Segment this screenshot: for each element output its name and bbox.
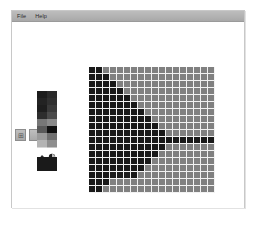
canvas-cell[interactable] (187, 116, 194, 123)
canvas-cell[interactable] (138, 102, 145, 109)
canvas-cell[interactable] (208, 186, 215, 193)
canvas-cell[interactable] (110, 81, 117, 88)
canvas-cell[interactable] (89, 144, 96, 151)
canvas-cell[interactable] (138, 158, 145, 165)
color-palette[interactable] (37, 91, 57, 154)
canvas-cell[interactable] (96, 186, 103, 193)
canvas-cell[interactable] (159, 144, 166, 151)
canvas-cell[interactable] (103, 179, 110, 186)
canvas-cell[interactable] (152, 186, 159, 193)
canvas-cell[interactable] (89, 137, 96, 144)
canvas-cell[interactable] (166, 158, 173, 165)
current-color-swatch[interactable] (37, 157, 57, 171)
canvas-cell[interactable] (152, 179, 159, 186)
canvas-cell[interactable] (173, 116, 180, 123)
canvas-cell[interactable] (194, 179, 201, 186)
canvas-cell[interactable] (96, 74, 103, 81)
canvas-cell[interactable] (208, 81, 215, 88)
canvas-cell[interactable] (124, 179, 131, 186)
canvas-cell[interactable] (159, 151, 166, 158)
canvas-cell[interactable] (138, 137, 145, 144)
canvas-cell[interactable] (117, 74, 124, 81)
canvas-cell[interactable] (166, 109, 173, 116)
canvas-cell[interactable] (145, 186, 152, 193)
canvas-cell[interactable] (103, 151, 110, 158)
canvas-cell[interactable] (117, 116, 124, 123)
canvas-cell[interactable] (103, 137, 110, 144)
canvas-cell[interactable] (131, 179, 138, 186)
menu-help[interactable]: Help (31, 13, 51, 20)
canvas-cell[interactable] (201, 102, 208, 109)
canvas-cell[interactable] (145, 88, 152, 95)
canvas-cell[interactable] (131, 109, 138, 116)
canvas-cell[interactable] (187, 109, 194, 116)
canvas-cell[interactable] (166, 172, 173, 179)
palette-swatch[interactable] (47, 119, 57, 126)
canvas-cell[interactable] (187, 88, 194, 95)
canvas-cell[interactable] (187, 67, 194, 74)
canvas-cell[interactable] (152, 102, 159, 109)
canvas-cell[interactable] (124, 186, 131, 193)
canvas-cell[interactable] (166, 67, 173, 74)
canvas-cell[interactable] (131, 130, 138, 137)
canvas-cell[interactable] (89, 81, 96, 88)
canvas-cell[interactable] (145, 151, 152, 158)
canvas-cell[interactable] (159, 123, 166, 130)
canvas-cell[interactable] (173, 137, 180, 144)
canvas-cell[interactable] (103, 95, 110, 102)
canvas-cell[interactable] (166, 81, 173, 88)
canvas-cell[interactable] (159, 130, 166, 137)
canvas-cell[interactable] (138, 165, 145, 172)
canvas-cell[interactable] (152, 137, 159, 144)
palette-swatch[interactable] (47, 133, 57, 140)
canvas-cell[interactable] (152, 165, 159, 172)
palette-swatch[interactable] (37, 98, 47, 105)
canvas-cell[interactable] (159, 186, 166, 193)
canvas-cell[interactable] (103, 116, 110, 123)
canvas-cell[interactable] (96, 179, 103, 186)
canvas-cell[interactable] (124, 172, 131, 179)
canvas-cell[interactable] (159, 102, 166, 109)
canvas-cell[interactable] (194, 137, 201, 144)
canvas-cell[interactable] (173, 186, 180, 193)
canvas-cell[interactable] (124, 144, 131, 151)
canvas-cell[interactable] (201, 109, 208, 116)
canvas-cell[interactable] (96, 151, 103, 158)
canvas-cell[interactable] (138, 179, 145, 186)
canvas-cell[interactable] (152, 123, 159, 130)
canvas-cell[interactable] (194, 95, 201, 102)
canvas-cell[interactable] (124, 109, 131, 116)
canvas-cell[interactable] (194, 130, 201, 137)
palette-swatch[interactable] (37, 140, 47, 147)
canvas-cell[interactable] (208, 130, 215, 137)
canvas-cell[interactable] (124, 151, 131, 158)
canvas-cell[interactable] (152, 158, 159, 165)
canvas-cell[interactable] (187, 186, 194, 193)
canvas-cell[interactable] (145, 102, 152, 109)
brush-icon[interactable] (37, 148, 47, 157)
canvas-cell[interactable] (187, 137, 194, 144)
canvas-cell[interactable] (201, 81, 208, 88)
canvas-cell[interactable] (194, 151, 201, 158)
canvas-cell[interactable] (159, 158, 166, 165)
canvas-cell[interactable] (194, 172, 201, 179)
canvas-cell[interactable] (124, 67, 131, 74)
canvas-cell[interactable] (138, 95, 145, 102)
canvas-cell[interactable] (180, 137, 187, 144)
canvas-cell[interactable] (173, 67, 180, 74)
canvas-cell[interactable] (159, 74, 166, 81)
canvas-cell[interactable] (201, 123, 208, 130)
canvas-cell[interactable] (110, 172, 117, 179)
canvas-cell[interactable] (96, 158, 103, 165)
canvas-cell[interactable] (145, 130, 152, 137)
canvas-cell[interactable] (159, 172, 166, 179)
canvas-cell[interactable] (180, 179, 187, 186)
canvas-cell[interactable] (159, 88, 166, 95)
canvas-cell[interactable] (103, 81, 110, 88)
canvas-cell[interactable] (159, 165, 166, 172)
canvas-cell[interactable] (173, 95, 180, 102)
canvas-cell[interactable] (110, 102, 117, 109)
canvas-cell[interactable] (159, 81, 166, 88)
canvas-cell[interactable] (173, 158, 180, 165)
canvas-cell[interactable] (180, 81, 187, 88)
